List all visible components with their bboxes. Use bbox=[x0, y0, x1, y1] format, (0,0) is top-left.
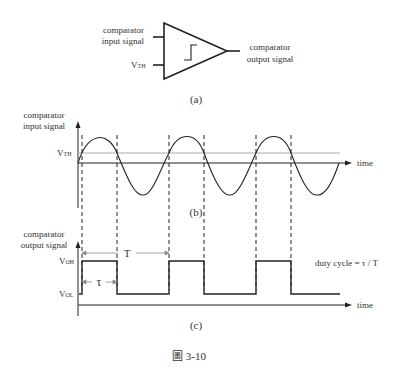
figure-caption: 圖 3-10 bbox=[172, 350, 206, 362]
output-label-2: output signal bbox=[247, 54, 294, 64]
y-axis-arrow-icon bbox=[76, 241, 81, 248]
b-ylabel-1: comparator bbox=[24, 110, 65, 120]
y-axis-arrow-icon bbox=[76, 121, 81, 128]
vth-label-b: VTH bbox=[57, 148, 72, 158]
crossing-markers bbox=[82, 135, 291, 290]
b-xlabel: time bbox=[357, 158, 373, 168]
tau-label: τ bbox=[97, 275, 102, 289]
c-ylabel-2: output signal bbox=[21, 240, 68, 250]
caption-c: (c) bbox=[190, 319, 203, 332]
c-ylabel-1: comparator bbox=[24, 229, 65, 239]
x-axis-arrow-icon bbox=[345, 303, 352, 308]
voh-label: VOH bbox=[59, 256, 75, 266]
duty-cycle-formula: duty cycle = τ / T bbox=[315, 258, 378, 268]
b-ylabel-2: input signal bbox=[23, 121, 66, 131]
square-wave bbox=[79, 261, 340, 294]
x-axis-arrow-icon bbox=[345, 161, 352, 166]
caption-a: (a) bbox=[190, 93, 203, 106]
output-label-1: comparator bbox=[250, 42, 291, 52]
vol-label: VOL bbox=[59, 289, 74, 299]
hysteresis-step-icon bbox=[184, 45, 197, 60]
input-label-1: comparator bbox=[103, 25, 144, 35]
c-xlabel: time bbox=[357, 300, 373, 310]
caption-b: (b) bbox=[190, 206, 203, 219]
comparator-diagram: comparator input signal VTH comparator o… bbox=[0, 0, 400, 381]
period-label: T bbox=[124, 247, 131, 259]
vth-label-a: VTH bbox=[131, 60, 146, 70]
comparator-symbol bbox=[153, 23, 240, 79]
input-label-2: input signal bbox=[102, 36, 145, 46]
